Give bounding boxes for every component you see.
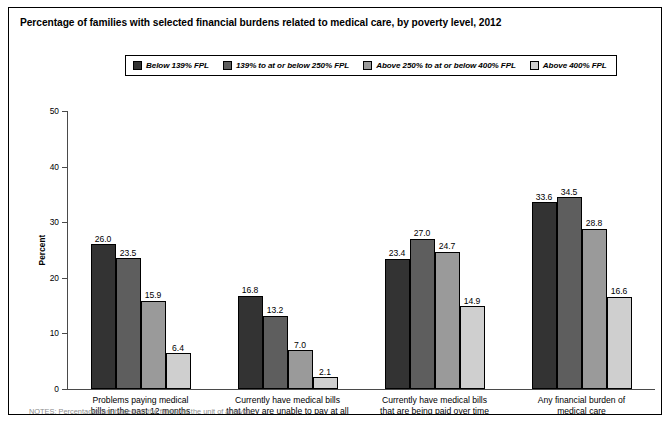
legend-label: 139% to at or below 250% FPL: [236, 61, 349, 70]
figure-frame: Percentage of families with selected fin…: [8, 7, 662, 415]
bar-value-label: 16.6: [611, 287, 628, 296]
legend-swatch-icon: [363, 61, 372, 70]
bar[interactable]: 7.0: [288, 350, 313, 389]
legend-swatch-icon: [223, 61, 232, 70]
bar[interactable]: 15.9: [141, 301, 166, 389]
legend-label: Above 250% to at or below 400% FPL: [376, 61, 516, 70]
bar[interactable]: 16.6: [607, 297, 632, 389]
bar-value-label: 2.1: [319, 368, 331, 377]
y-axis-tick-label: 40: [50, 163, 59, 171]
bar-value-label: 26.0: [95, 235, 112, 244]
bar[interactable]: 23.5: [116, 258, 141, 389]
y-axis-tick: 20: [62, 278, 67, 279]
x-axis-category-line: Any financial burden of: [538, 395, 625, 406]
x-axis-category-line: Problems paying medical: [91, 395, 190, 406]
bar-group: 16.813.27.02.1Currently have medical bil…: [238, 111, 338, 389]
x-axis-category-line: Currently have medical bills: [226, 395, 348, 406]
y-axis-tick-label: 10: [50, 329, 59, 337]
y-axis-tick: 10: [62, 333, 67, 334]
bar[interactable]: 13.2: [263, 316, 288, 389]
bar[interactable]: 33.6: [532, 202, 557, 389]
y-axis-tick-label: 30: [50, 218, 59, 226]
legend-item-3[interactable]: Above 400% FPL: [530, 61, 607, 70]
bar-value-label: 23.5: [120, 249, 137, 258]
bar[interactable]: 2.1: [313, 377, 338, 389]
y-axis-line: [67, 111, 68, 389]
bar[interactable]: 16.8: [238, 296, 263, 389]
legend-label: Above 400% FPL: [543, 61, 607, 70]
y-axis-tick-label: 20: [50, 274, 59, 282]
y-axis-tick: 0: [62, 389, 67, 390]
y-axis-tick-label: 50: [50, 107, 59, 115]
legend-item-0[interactable]: Below 139% FPL: [133, 61, 209, 70]
bar[interactable]: 14.9: [460, 306, 485, 389]
legend-label: Below 139% FPL: [146, 61, 209, 70]
bar-value-label: 24.7: [439, 242, 456, 251]
y-axis-tick: 30: [62, 222, 67, 223]
legend-swatch-icon: [530, 61, 539, 70]
y-axis-label: Percent: [38, 235, 47, 266]
x-axis-category-line: Currently have medical bills: [380, 395, 489, 406]
y-axis-tick-label: 0: [54, 385, 59, 393]
bar-value-label: 34.5: [561, 188, 578, 197]
bar-value-label: 15.9: [145, 291, 162, 300]
bar[interactable]: 27.0: [410, 239, 435, 389]
bar-value-label: 28.8: [586, 219, 603, 228]
bar[interactable]: 28.8: [582, 229, 607, 389]
bar-value-label: 6.4: [172, 344, 184, 353]
x-axis-line: [67, 389, 655, 390]
bar-value-label: 16.8: [242, 286, 259, 295]
plot-area: Percent 01020304050 26.023.515.96.4Probl…: [67, 111, 655, 389]
bar-value-label: 27.0: [414, 229, 431, 238]
bar[interactable]: 34.5: [557, 197, 582, 389]
footnote-clipped: NOTES: Percentages are based on the fami…: [29, 408, 589, 414]
bar-value-label: 13.2: [267, 306, 284, 315]
bar[interactable]: 24.7: [435, 252, 460, 389]
bar-value-label: 23.4: [389, 249, 406, 258]
legend-item-2[interactable]: Above 250% to at or below 400% FPL: [363, 61, 516, 70]
legend-swatch-icon: [133, 61, 142, 70]
bar[interactable]: 26.0: [91, 244, 116, 389]
bar[interactable]: 6.4: [166, 353, 191, 389]
bar-value-label: 33.6: [536, 193, 553, 202]
bar-group: 26.023.515.96.4Problems paying medicalbi…: [91, 111, 191, 389]
bar-group: 33.634.528.816.6Any financial burden ofm…: [532, 111, 632, 389]
y-axis-tick: 40: [62, 167, 67, 168]
chart-legend: Below 139% FPL 139% to at or below 250% …: [125, 55, 617, 76]
bar-group: 23.427.024.714.9Currently have medical b…: [385, 111, 485, 389]
bar[interactable]: 23.4: [385, 259, 410, 389]
legend-item-1[interactable]: 139% to at or below 250% FPL: [223, 61, 349, 70]
y-axis-tick: 50: [62, 111, 67, 112]
page-title: Percentage of families with selected fin…: [20, 17, 640, 29]
bar-value-label: 7.0: [294, 341, 306, 350]
bar-value-label: 14.9: [464, 297, 481, 306]
